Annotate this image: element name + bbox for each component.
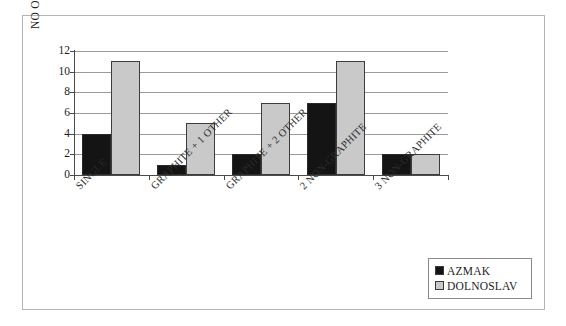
x-axis-tick-mark [448, 175, 449, 180]
y-axis-tick-label: 0 [44, 169, 70, 181]
bar-dolnoslav-4[interactable] [411, 154, 440, 175]
y-axis-tick-label: 2 [44, 149, 70, 161]
y-axis-tick-mark [70, 154, 75, 155]
bar-dolnoslav-0[interactable] [111, 61, 140, 175]
x-axis-tick-mark [149, 175, 150, 180]
y-axis-tick-mark [70, 92, 75, 93]
y-axis-tick-label: 4 [44, 128, 70, 140]
legend-swatch-icon-azmak [435, 266, 444, 275]
y-axis-tick-label: 12 [44, 45, 70, 57]
chart-legend: AZMAK DOLNOSLAV [428, 258, 532, 299]
bar-dolnoslav-2[interactable] [261, 103, 290, 175]
legend-swatch-icon-dolnoslav [435, 281, 444, 290]
x-axis-tick-mark [74, 175, 75, 180]
x-axis-tick-mark [298, 175, 299, 180]
y-axis-tick-label: 6 [44, 107, 70, 119]
bar-dolnoslav-3[interactable] [336, 61, 365, 175]
bar-dolnoslav-1[interactable] [186, 123, 215, 175]
y-axis-title: NO OF CATEGORIES [26, 0, 44, 48]
y-axis-tick-mark [70, 51, 75, 52]
legend-label-dolnoslav: DOLNOSLAV [447, 280, 518, 292]
bar-azmak-1[interactable] [157, 165, 186, 175]
legend-label-azmak: AZMAK [447, 265, 490, 277]
legend-item-azmak[interactable]: AZMAK [435, 263, 525, 278]
y-axis-tick-mark [70, 72, 75, 73]
y-axis-tick-label: 8 [44, 87, 70, 99]
legend-item-dolnoslav[interactable]: DOLNOSLAV [435, 278, 525, 293]
bar-azmak-2[interactable] [232, 154, 261, 175]
x-axis-tick-mark [373, 175, 374, 180]
bars-layer [74, 51, 449, 175]
x-axis-line [74, 175, 449, 176]
y-axis-tick-group: 024681012 [40, 51, 70, 175]
y-axis-tick-label: 10 [44, 66, 70, 78]
x-axis-tick-mark [224, 175, 225, 180]
y-axis-tick-mark [70, 134, 75, 135]
bar-azmak-4[interactable] [382, 154, 411, 175]
y-axis-tick-mark [70, 113, 75, 114]
bar-azmak-0[interactable] [82, 134, 111, 175]
bar-azmak-3[interactable] [307, 103, 336, 175]
